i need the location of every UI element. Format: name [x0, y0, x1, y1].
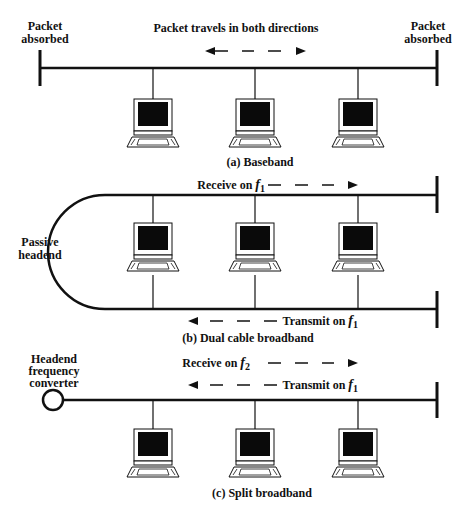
caption-baseband: (a) Baseband: [226, 155, 293, 169]
workstation-icon: [229, 429, 281, 477]
workstation-icon: [127, 99, 179, 147]
panel-dual-cable: Receive on f1 Passiveheadend Transmit on…: [18, 176, 437, 345]
workstation-icon: [332, 429, 384, 477]
caption-dual-cable: (b) Dual cable broadband: [182, 331, 314, 345]
direction-label: Packet travels in both directions: [153, 21, 318, 35]
workstation-icon: [127, 429, 179, 477]
bidirectional-arrow-icon: [205, 47, 306, 55]
lan-topologies-diagram: Packetabsorbed Packetabsorbed Packet tra…: [0, 0, 466, 514]
transmit-label: Transmit on f1: [283, 313, 358, 330]
panel-split: Headendfrequencyconverter Receive on f2 …: [28, 352, 437, 500]
workstation-icon: [229, 99, 281, 147]
right-arrow-icon: [268, 359, 358, 367]
left-arrow-icon: [188, 317, 277, 325]
left-arrow-icon: [188, 381, 277, 389]
receive-label: Receive on f1: [197, 177, 265, 194]
frequency-converter-icon: [43, 390, 63, 410]
caption-split: (c) Split broadband: [212, 486, 312, 500]
right-absorb-label: Packetabsorbed: [404, 19, 452, 46]
workstation-icon: [127, 223, 179, 271]
panel-baseband: Packetabsorbed Packetabsorbed Packet tra…: [21, 19, 452, 169]
right-arrow-icon: [268, 181, 358, 189]
passive-headend-label: Passiveheadend: [18, 235, 62, 262]
headend-converter-label: Headendfrequencyconverter: [28, 352, 79, 390]
workstation-icon: [229, 223, 281, 271]
workstation-icon: [332, 99, 384, 147]
transmit-label: Transmit on f1: [283, 377, 358, 394]
receive-label: Receive on f2: [182, 355, 250, 372]
workstation-icon: [332, 223, 384, 271]
left-absorb-label: Packetabsorbed: [21, 19, 69, 46]
